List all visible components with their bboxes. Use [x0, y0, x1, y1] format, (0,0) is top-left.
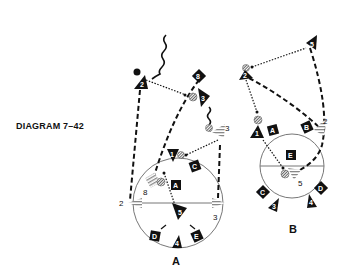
ball-b-2	[254, 116, 262, 124]
arrow-a-e	[190, 225, 195, 229]
cut-path-a-3	[218, 145, 220, 198]
defense-player-b-e-label: E	[288, 152, 293, 159]
cut-path-a-2	[130, 90, 140, 200]
screen-label-a-8: 8	[143, 188, 148, 197]
defense-player-b-c-label: C	[260, 189, 265, 196]
panel-a: 2 8 3 3 1 C 8 2 3 A	[119, 35, 230, 267]
pass-path-b-3	[263, 140, 283, 168]
screen-label-a-3-top: 3	[225, 124, 230, 133]
pass-end-dot-b-2	[282, 167, 285, 170]
offense-player-b-2-label: 2	[243, 72, 247, 79]
ball-a-3	[178, 152, 185, 159]
ball-dot-a-2	[134, 69, 141, 76]
pass-end-dot-a-2	[185, 154, 188, 157]
defense-player-a-c-label: C	[192, 163, 197, 170]
ball-a-2	[206, 125, 213, 132]
ball-b-3	[281, 170, 289, 178]
arrow-a-d	[161, 225, 166, 229]
pass-end-dot-b	[256, 111, 259, 114]
panel-b: 5 2 1 A B 2 E 5 C 3	[239, 35, 328, 235]
screen-label-a-2: 2	[119, 199, 124, 208]
offense-player-a-1-label: 1	[170, 151, 174, 158]
defense-player-a-a-label: A	[173, 182, 178, 189]
pass-end-dot-a	[184, 94, 187, 97]
defense-player-a-d-label: D	[152, 233, 157, 240]
panel-label-b: B	[289, 223, 297, 235]
screen-label-b-5: 5	[298, 179, 303, 188]
defense-player-a-e-label: E	[194, 233, 199, 240]
diagram-canvas: 2 8 3 3 1 C 8 2 3 A	[0, 0, 351, 276]
offense-player-b-5-top-label: 5	[310, 41, 314, 48]
defense-player-b-a-label: A	[270, 127, 275, 134]
offense-player-b-4-label: 4	[309, 199, 313, 206]
pass-path-a-2	[186, 140, 218, 155]
defense-player-a-8-label: 8	[196, 73, 200, 80]
dribble-path-a-top	[152, 35, 166, 79]
pass-path-b-2	[246, 80, 257, 112]
pass-path-a-1	[146, 80, 186, 95]
offense-player-b-1-label: 1	[255, 130, 259, 137]
ball-b-1	[243, 65, 250, 72]
defense-player-b-d-label: D	[318, 185, 323, 192]
pass-end-dot-a-3	[163, 172, 166, 175]
defense-player-b-b-label: B	[304, 124, 309, 131]
offense-player-a-2-label: 2	[140, 81, 144, 88]
offense-player-a-3-label: 3	[201, 95, 205, 102]
offense-player-a-5-label: 5	[178, 209, 182, 216]
screen-label-b-2: 2	[323, 117, 328, 126]
screen-marker-a-2	[128, 198, 142, 208]
offense-player-b-3-label: 3	[272, 203, 276, 210]
panel-label-a: A	[172, 255, 180, 267]
offense-player-a-4-label: 4	[175, 240, 179, 247]
pass-path-b-1	[252, 48, 306, 67]
ball-a-1	[189, 93, 197, 101]
pass-start-dot-b	[251, 66, 254, 69]
screen-marker-a-3-top	[212, 124, 225, 138]
ball-a-4	[157, 178, 165, 186]
screen-label-a-3: 3	[213, 213, 218, 222]
